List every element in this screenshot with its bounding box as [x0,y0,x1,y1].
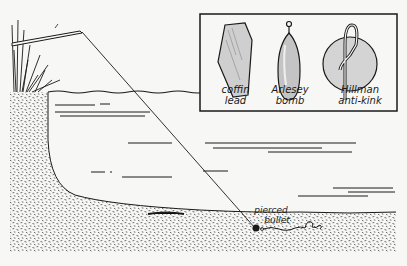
label-arlesey-bomb: Arlesey bomb [265,84,315,106]
label-line: Arlesey [265,84,315,95]
label-coffin-lead: coffin lead [213,84,258,106]
pierced-bullet [253,225,260,232]
label-line: coffin [213,84,258,95]
label-line: anti-kink [330,95,390,106]
fishing-rod [12,31,82,46]
label-line: pierced [247,205,295,215]
diagram-illustration [0,0,407,266]
label-line: Hillman [330,84,390,95]
label-hillman-anti-kink: Hillman anti-kink [330,84,390,106]
label-line: bomb [265,95,315,106]
fishing-diagram: coffin lead Arlesey bomb Hillman anti-ki… [0,0,407,266]
water-lines [55,104,395,214]
reeds [12,20,60,92]
label-pierced-bullet: pierced bullet [247,205,295,225]
label-line: lead [213,95,258,106]
label-line: bullet [247,215,295,225]
